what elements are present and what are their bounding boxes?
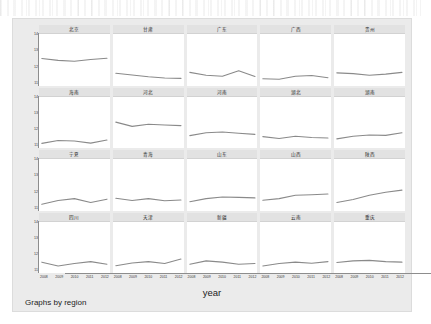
panel-series-line	[113, 34, 184, 86]
panel-四川: 四川	[39, 213, 110, 274]
panel-河南: 河南	[187, 88, 258, 149]
panel-series-line	[334, 34, 405, 86]
panel-title: 湖南	[334, 88, 405, 97]
panel-重庆: 重庆	[334, 213, 405, 274]
x-tick-label: 2009	[203, 275, 211, 285]
panel-云南: 云南	[260, 213, 331, 274]
panel-title: 甘肃	[113, 25, 184, 34]
panel-山东: 山东	[187, 150, 258, 211]
panel-广西: 广西	[260, 25, 331, 86]
panel-plot-area	[113, 159, 184, 211]
panel-plot-area	[113, 34, 184, 86]
panel-plot-area	[39, 34, 110, 86]
panel-series-line	[39, 97, 110, 149]
panel-title: 山西	[260, 150, 331, 159]
panel-series-line	[260, 34, 331, 86]
panel-plot-area	[187, 159, 258, 211]
panel-plot-area	[334, 222, 405, 274]
panel-series-line	[39, 222, 110, 274]
panel-湖南: 湖南	[334, 88, 405, 149]
x-tick-label: 2008	[335, 275, 343, 285]
figure-caption: Graphs by region	[25, 298, 86, 307]
x-tick-label: 2008	[40, 275, 48, 285]
y-axis-spine	[38, 158, 39, 211]
x-tick-label: 2008	[114, 275, 122, 285]
y-axis-spine	[38, 96, 39, 149]
panel-series-line	[187, 34, 258, 86]
panel-plot-area	[260, 159, 331, 211]
panel-plot-area	[113, 222, 184, 274]
panel-title: 云南	[260, 213, 331, 222]
panel-plot-area	[187, 34, 258, 86]
panel-山西: 山西	[260, 150, 331, 211]
y-axis-spine	[38, 221, 39, 274]
x-tick-label: 2008	[261, 275, 269, 285]
panel-plot-area	[334, 97, 405, 149]
panel-title: 河南	[187, 88, 258, 97]
stata-graph-figure: 北京甘肃广东广西贵州海南河北河南湖北湖南宁夏青海山东山西陕西四川天津新疆云南重庆…	[12, 18, 412, 312]
panel-series-line	[113, 222, 184, 274]
panel-title: 河北	[113, 88, 184, 97]
panel-河北: 河北	[113, 88, 184, 149]
panel-title: 广西	[260, 25, 331, 34]
panel-series-line	[260, 159, 331, 211]
x-tick-group: 20082009201020112012	[113, 275, 184, 285]
x-tick-label: 2010	[292, 275, 300, 285]
panel-新疆: 新疆	[187, 213, 258, 274]
panel-plot-area	[260, 222, 331, 274]
panel-青海: 青海	[113, 150, 184, 211]
panel-series-line	[113, 159, 184, 211]
panel-series-line	[334, 97, 405, 149]
panel-plot-area	[260, 97, 331, 149]
panel-grid: 北京甘肃广东广西贵州海南河北河南湖北湖南宁夏青海山东山西陕西四川天津新疆云南重庆	[39, 25, 405, 273]
panel-series-line	[187, 97, 258, 149]
x-tick-group: 20082009201020112012	[260, 275, 331, 285]
panel-title: 湖北	[260, 88, 331, 97]
x-tick-label: 2010	[218, 275, 226, 285]
x-tick-group: 20082009201020112012	[39, 275, 110, 285]
panel-title: 重庆	[334, 213, 405, 222]
panel-title: 天津	[113, 213, 184, 222]
panel-plot-area	[187, 97, 258, 149]
y-axis-tick-labels: 14131211	[25, 33, 38, 86]
x-tick-label: 2012	[396, 275, 404, 285]
panel-北京: 北京	[39, 25, 110, 86]
y-axis-tick-labels: 14131211	[25, 158, 38, 211]
panel-title: 山东	[187, 150, 258, 159]
x-axis-label: year	[13, 287, 411, 298]
panel-series-line	[187, 222, 258, 274]
panel-series-line	[334, 159, 405, 211]
panel-贵州: 贵州	[334, 25, 405, 86]
panel-title: 四川	[39, 213, 110, 222]
x-tick-label: 2011	[160, 275, 168, 285]
panel-title: 新疆	[187, 213, 258, 222]
panel-series-line	[260, 97, 331, 149]
x-tick-label: 2010	[144, 275, 152, 285]
panel-series-line	[113, 97, 184, 149]
x-tick-label: 2009	[55, 275, 63, 285]
scan-noise-band	[0, 0, 421, 16]
panel-plot-area	[113, 97, 184, 149]
panel-series-line	[334, 222, 405, 274]
y-axis-tick-labels: 14131211	[25, 96, 38, 149]
x-tick-label: 2012	[175, 275, 183, 285]
panel-宁夏: 宁夏	[39, 150, 110, 211]
x-tick-label: 2009	[277, 275, 285, 285]
x-tick-label: 2009	[351, 275, 359, 285]
x-tick-label: 2008	[188, 275, 196, 285]
x-tick-label: 2012	[249, 275, 257, 285]
panel-plot-area	[187, 222, 258, 274]
panel-plot-area	[39, 222, 110, 274]
x-axis-tick-group: 2008200920102011201220082009201020112012…	[39, 275, 405, 285]
x-tick-label: 2012	[101, 275, 109, 285]
x-tick-label: 2011	[86, 275, 94, 285]
panel-plot-area	[260, 34, 331, 86]
x-tick-group: 20082009201020112012	[334, 275, 405, 285]
x-tick-label: 2010	[71, 275, 79, 285]
panel-series-line	[39, 159, 110, 211]
x-tick-label: 2011	[234, 275, 242, 285]
panel-title: 青海	[113, 150, 184, 159]
x-tick-label: 2012	[322, 275, 330, 285]
x-tick-label: 2011	[381, 275, 389, 285]
panel-series-line	[187, 159, 258, 211]
